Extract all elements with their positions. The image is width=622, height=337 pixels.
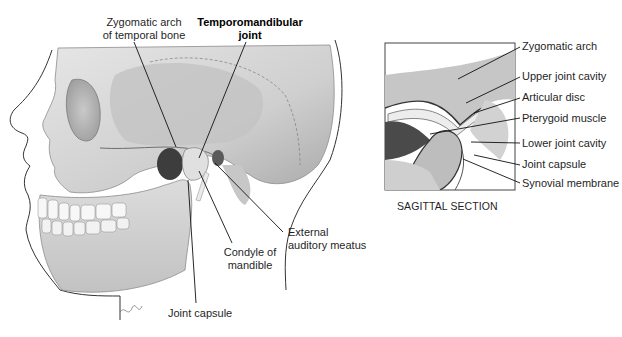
sagittal-label-joint-capsule: Joint capsule	[522, 158, 586, 171]
label-zygomatic-arch-temporal: Zygomatic arch of temporal bone	[86, 16, 202, 42]
sagittal-label-zygomatic-arch: Zygomatic arch	[522, 40, 597, 53]
sagittal-label-upper-joint-cavity: Upper joint cavity	[522, 70, 606, 83]
artist-signature	[120, 306, 142, 312]
sagittal-label-pterygoid-muscle: Pterygoid muscle	[522, 112, 606, 125]
label-external-auditory-meatus: External auditory meatus	[288, 226, 366, 252]
label-condyle-of-mandible: Condyle of mandible	[212, 246, 288, 272]
coronoid-muscle	[157, 148, 183, 180]
sagittal-section-caption: SAGITTAL SECTION	[397, 200, 498, 213]
sagittal-label-lower-joint-cavity: Lower joint cavity	[522, 137, 606, 150]
mandible	[39, 180, 192, 292]
sagittal-section-figure	[385, 43, 515, 190]
label-temporomandibular-joint: Temporomandibular joint	[196, 16, 304, 42]
sagittal-label-articular-disc: Articular disc	[522, 91, 585, 104]
auditory-meatus	[212, 150, 224, 166]
label-joint-capsule: Joint capsule	[168, 307, 232, 320]
sagittal-label-synovial-membrane: Synovial membrane	[522, 177, 619, 190]
